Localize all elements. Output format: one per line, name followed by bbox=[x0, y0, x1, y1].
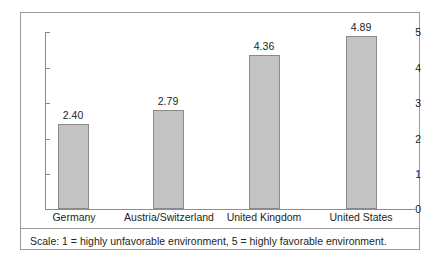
y-tick-label-2: 2 bbox=[401, 134, 421, 145]
y-tick-1 bbox=[45, 174, 50, 175]
chart-caption: Scale: 1 = highly unfavorable environmen… bbox=[30, 235, 415, 248]
bar-value-united-kingdom: 4.36 bbox=[234, 41, 294, 52]
y-tick-2 bbox=[45, 139, 50, 140]
y-axis-line bbox=[45, 32, 46, 209]
bar-united-kingdom bbox=[249, 55, 280, 209]
caption-divider bbox=[21, 228, 419, 229]
y-tick-3 bbox=[45, 103, 50, 104]
y-tick-label-3: 3 bbox=[401, 98, 421, 109]
bar-united-states bbox=[346, 36, 377, 209]
bar-value-germany: 2.40 bbox=[43, 110, 103, 121]
y-tick-label-5: 5 bbox=[401, 27, 421, 38]
category-label-united-states: United States bbox=[301, 212, 421, 224]
bar-austria-switzerland bbox=[153, 110, 184, 209]
y-tick-label-1: 1 bbox=[401, 169, 421, 180]
bar-value-austria-switzerland: 2.79 bbox=[138, 96, 198, 107]
chart-figure: 0 1 2 3 4 5 2.40 Germany 2.79 Austria/Sw… bbox=[20, 12, 420, 250]
y-tick-4 bbox=[45, 68, 50, 69]
y-tick-5 bbox=[45, 32, 50, 33]
bar-value-united-states: 4.89 bbox=[331, 22, 391, 33]
bar-germany bbox=[58, 124, 89, 209]
plot-area: 0 1 2 3 4 5 2.40 Germany 2.79 Austria/Sw… bbox=[21, 13, 421, 217]
y-tick-0 bbox=[45, 209, 50, 210]
x-axis-line bbox=[45, 209, 415, 210]
y-tick-label-4: 4 bbox=[401, 63, 421, 74]
